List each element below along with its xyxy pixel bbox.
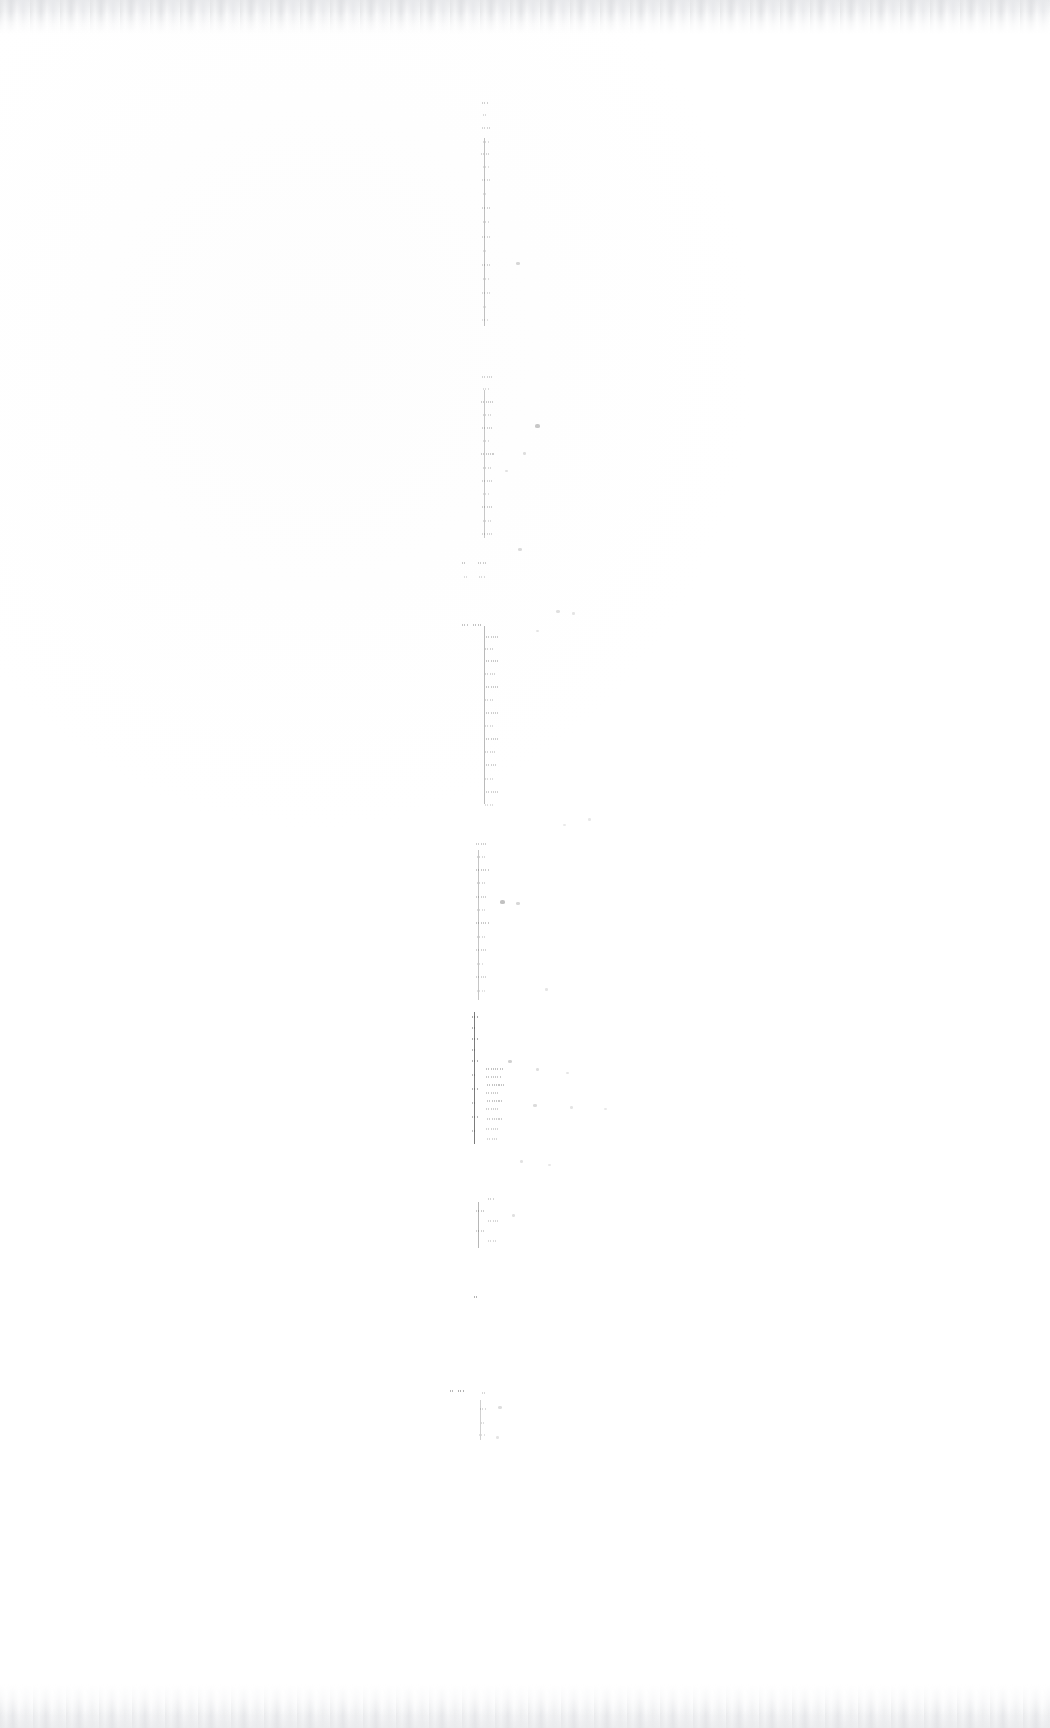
degraded-text-line <box>478 562 486 564</box>
ink-speck <box>505 470 508 472</box>
degraded-text-line <box>482 319 489 321</box>
degraded-text-line <box>481 453 494 455</box>
degraded-text-line <box>486 1068 504 1070</box>
degraded-text-line <box>481 1422 486 1424</box>
degraded-text-line <box>483 388 490 390</box>
degraded-text-line <box>487 1138 497 1140</box>
degraded-text-line <box>483 278 489 280</box>
vertical-rule <box>474 1012 475 1144</box>
degraded-text-line <box>485 725 493 727</box>
ink-speck <box>496 1436 499 1439</box>
degraded-text-line <box>483 250 488 252</box>
degraded-text-line <box>482 480 493 482</box>
degraded-text-line <box>472 1016 478 1018</box>
ink-speck <box>536 1068 539 1071</box>
degraded-text-line <box>482 533 492 535</box>
degraded-text-line <box>472 1038 479 1040</box>
ink-speck <box>570 1106 573 1109</box>
degraded-text-line <box>486 764 497 766</box>
ink-speck <box>516 262 520 265</box>
degraded-text-line <box>483 141 489 143</box>
faded-text-block <box>470 100 516 332</box>
degraded-text-line <box>464 576 468 578</box>
degraded-text-line <box>486 791 498 793</box>
degraded-text-line <box>472 1116 478 1118</box>
ink-speck <box>556 610 560 613</box>
degraded-text-line <box>488 1220 498 1222</box>
ink-speck <box>536 630 539 632</box>
degraded-text-line <box>481 401 493 403</box>
degraded-text-line <box>477 882 486 884</box>
ink-speck <box>533 1104 537 1107</box>
degraded-text-line <box>485 699 494 701</box>
degraded-text-line <box>486 686 499 688</box>
degraded-text-line <box>486 1128 498 1130</box>
degraded-text-line <box>485 673 495 675</box>
ink-speck <box>508 1060 512 1063</box>
degraded-text-line <box>486 636 498 638</box>
faded-text-block <box>462 622 538 818</box>
degraded-text-line <box>472 1102 477 1104</box>
degraded-text-line <box>479 1434 486 1436</box>
degraded-text-line <box>472 1027 477 1029</box>
ink-speck <box>566 1072 569 1074</box>
degraded-text-line <box>462 624 468 626</box>
degraded-text-line <box>472 1088 478 1090</box>
degraded-text-line <box>482 1392 486 1394</box>
degraded-text-line <box>482 506 494 508</box>
ink-speck <box>498 1406 502 1409</box>
degraded-text-line <box>482 102 489 104</box>
degraded-text-line <box>487 1100 503 1102</box>
degraded-text-line <box>477 963 484 965</box>
degraded-text-line <box>481 153 490 155</box>
ink-speck <box>545 988 548 991</box>
degraded-text-line <box>476 976 486 978</box>
ink-speck <box>588 818 591 821</box>
degraded-text-line <box>488 1240 497 1242</box>
degraded-text-line <box>486 738 500 740</box>
degraded-text-line <box>483 193 488 195</box>
degraded-text-line <box>476 1210 485 1212</box>
degraded-text-line <box>482 236 490 238</box>
degraded-text-line <box>477 909 485 911</box>
degraded-text-line <box>458 1390 465 1392</box>
degraded-text-line <box>485 778 493 780</box>
ink-speck <box>523 452 526 455</box>
degraded-text-line <box>480 1408 486 1410</box>
degraded-text-line <box>462 562 467 564</box>
degraded-text-line <box>483 306 488 308</box>
degraded-text-line <box>483 166 489 168</box>
degraded-text-line <box>472 1074 477 1076</box>
ink-speck <box>518 548 522 551</box>
scanned-page <box>0 0 1050 1728</box>
degraded-text-line <box>482 376 492 378</box>
degraded-text-line <box>485 804 494 806</box>
degraded-text-line <box>486 1076 501 1078</box>
ink-speck <box>535 424 540 428</box>
degraded-text-line <box>476 869 489 871</box>
degraded-text-line <box>488 1198 495 1200</box>
degraded-text-line <box>477 936 486 938</box>
degraded-text-line <box>483 520 491 522</box>
ink-speck <box>572 612 575 615</box>
degraded-text-line <box>450 1390 455 1392</box>
degraded-text-line <box>487 1118 502 1120</box>
faded-text-block <box>462 840 540 1008</box>
degraded-text-line <box>486 660 500 662</box>
faded-text-block <box>470 1292 510 1310</box>
degraded-text-line <box>476 896 488 898</box>
ink-speck <box>512 1214 515 1217</box>
degraded-text-line <box>482 292 490 294</box>
degraded-text-line <box>483 493 490 495</box>
degraded-text-line <box>472 1049 477 1051</box>
ink-speck <box>604 1108 607 1110</box>
degraded-text-line <box>482 264 491 266</box>
degraded-text-line <box>483 114 488 116</box>
degraded-text-line <box>482 179 490 181</box>
degraded-text-line <box>472 1130 477 1132</box>
faded-text-block <box>464 372 528 548</box>
degraded-text-line <box>485 751 495 753</box>
degraded-text-line <box>476 949 487 951</box>
degraded-text-line <box>482 127 490 129</box>
ink-speck <box>516 902 520 905</box>
